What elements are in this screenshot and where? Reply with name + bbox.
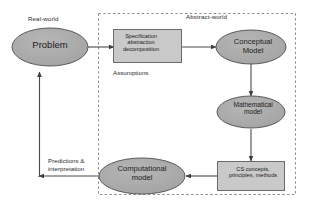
node-mathematical-model[interactable] bbox=[217, 96, 285, 128]
edge-label-predictions-interpretation: Predictions & interpretation bbox=[48, 157, 84, 173]
region-label-abstract-world: Abstract-world bbox=[186, 13, 227, 20]
annotation-assumptions: Assumptions bbox=[113, 69, 148, 77]
node-problem[interactable] bbox=[12, 28, 88, 66]
node-conceptual-model[interactable] bbox=[216, 30, 286, 64]
region-label-real-world: Real-world bbox=[28, 15, 59, 22]
node-specification[interactable] bbox=[114, 30, 182, 63]
diagram-canvas: Real-world Abstract-world Problem Specif… bbox=[0, 0, 312, 209]
node-computational-model[interactable] bbox=[99, 158, 185, 194]
node-cs-concepts[interactable] bbox=[218, 162, 285, 191]
diagram-graphics bbox=[0, 0, 312, 209]
